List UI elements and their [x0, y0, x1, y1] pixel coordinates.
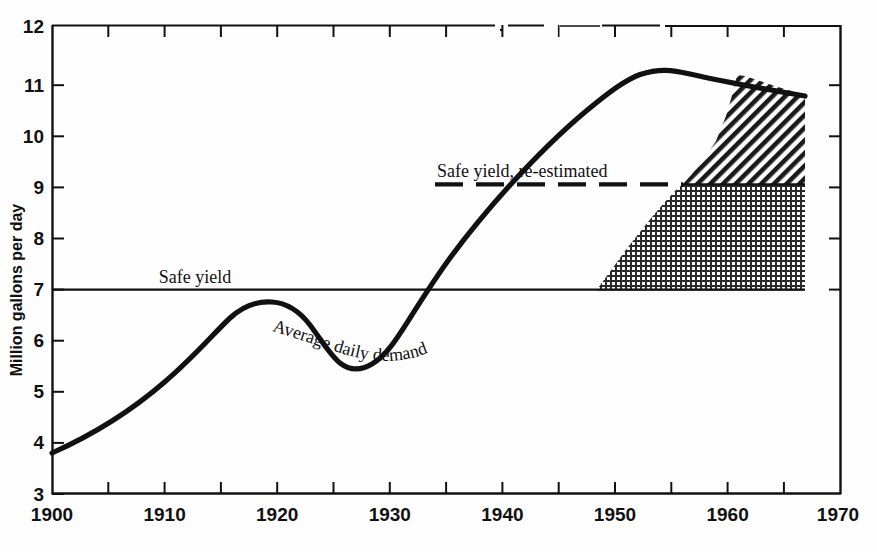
x-tick-label: 1900 [31, 504, 73, 525]
safe-yield-label: Safe yield [159, 267, 231, 287]
x-axis-tick-labels: 1900 1910 1920 1930 1940 1950 1960 1970 [31, 504, 859, 525]
y-tick-label: 8 [33, 228, 44, 249]
safe-yield-re-estimated-label: Safe yield, re-estimated [437, 161, 607, 181]
y-tick-label: 9 [33, 177, 44, 198]
x-tick-label: 1970 [817, 504, 859, 525]
fill-region-crosshatch [560, 180, 820, 300]
x-tick-label: 1940 [481, 504, 523, 525]
chart-figure: 12 11 10 9 8 7 6 5 4 3 1900 1910 1920 19… [0, 0, 877, 552]
x-tick-label: 1950 [594, 504, 636, 525]
y-tick-label: 12 [23, 16, 44, 37]
y-tick-label: 10 [23, 126, 44, 147]
y-axis-right-ticks [829, 85, 841, 289]
x-tick-label: 1910 [143, 504, 185, 525]
y-axis-title: Million gallons per day [8, 204, 25, 377]
x-tick-label: 1930 [369, 504, 411, 525]
y-tick-label: 11 [24, 75, 45, 96]
y-tick-label: 7 [33, 279, 44, 300]
x-tick-label: 1920 [256, 504, 298, 525]
x-tick-label: 1960 [706, 504, 748, 525]
y-axis-tick-labels: 12 11 10 9 8 7 6 5 4 3 [23, 16, 45, 505]
y-tick-label: 5 [33, 381, 44, 402]
y-tick-label: 3 [33, 484, 44, 505]
y-tick-label: 4 [33, 432, 44, 453]
y-tick-label: 6 [33, 330, 44, 351]
chart-canvas: 12 11 10 9 8 7 6 5 4 3 1900 1910 1920 19… [0, 0, 877, 552]
x-axis-ticks [108, 482, 784, 494]
